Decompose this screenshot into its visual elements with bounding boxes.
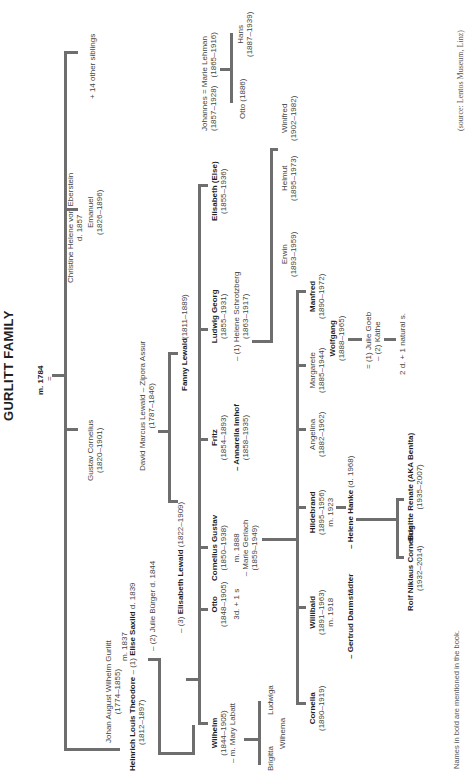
person-dates: d. 1857 — [75, 173, 84, 283]
person-name: Brigitte Renate (AKA Benita) — [406, 433, 415, 541]
generation1-line — [64, 51, 67, 751]
connector-line — [198, 546, 208, 549]
connector-line — [158, 658, 161, 755]
person-dates: (1887–1939) — [245, 12, 254, 57]
person-wolfgang: Wolfgang (1888–1965) — [328, 316, 346, 361]
person-dates: (1854–1893) — [219, 404, 228, 471]
person-dates: (1857–1928) — [209, 86, 218, 131]
person-dates: (1895–1973) — [289, 156, 298, 201]
spouse-julie-burger: – (2) Julie Bürger d. 1844 — [148, 561, 157, 651]
connector-line — [252, 340, 272, 343]
wolfgang-children: 2 d. + 1 natural s. — [398, 313, 407, 375]
person-dates: (1885–1944) — [317, 348, 326, 393]
connector-line — [296, 506, 306, 509]
connector-line — [270, 148, 278, 151]
connector-line — [230, 33, 233, 103]
person-dates: (1882–1962) — [317, 412, 326, 457]
person-dates: (1787–1846) — [147, 341, 156, 471]
person-name: – Helene Hanke — [346, 490, 355, 549]
connector-line — [296, 428, 306, 431]
person-dates: (1893–1959) — [289, 232, 298, 277]
person-name: Wilhelm — [210, 703, 219, 763]
spouse-helene-hanke: – Helene Hanke (d. 1968) — [346, 456, 355, 549]
person-dates: (1848–1905) — [219, 582, 228, 627]
person-brigitta: Brigitta — [266, 746, 275, 771]
spouse-marie-gerlach: – Marie Gerlach — [241, 515, 250, 581]
connector-line — [348, 338, 362, 341]
person-helmut: Helmut (1895–1973) — [280, 156, 298, 201]
person-wilhelm: Wilhelm (1844–1905) – m. Mary Labatt — [210, 703, 237, 763]
person-ludwiga: Ludwiga — [266, 685, 275, 715]
connector-line — [270, 149, 273, 343]
connector-line — [396, 498, 404, 501]
person-dates: (1902–1982) — [289, 96, 298, 141]
person-dates: (1855–1936) — [219, 161, 228, 221]
person-dates: (d. 1968) — [346, 456, 355, 488]
spouse-gertrud-darmstadter: – Gertrud Darmstädter — [346, 574, 355, 659]
marriage-date: m. 1923 — [326, 490, 335, 535]
person-dates: (1855–1931) — [219, 272, 228, 361]
connector-line — [220, 68, 230, 71]
person-brigitte-renate: Brigitte Renate (AKA Benita) (1935–2007) — [406, 433, 424, 541]
person-dates-heinrich: (1812–1897) — [137, 700, 146, 745]
person-johannes-dates: (1857–1928) (1865–1916) — [209, 32, 218, 131]
spouse-julie-goeb: = (1) Julie Goeb — [364, 312, 373, 369]
connector-line — [52, 374, 64, 377]
person-name: Johan August Wilhelm Gurlitt — [104, 640, 113, 743]
connector-line — [276, 538, 296, 541]
person-dates: (1890–1919) — [317, 686, 326, 731]
connector-line — [198, 328, 208, 331]
spouse-annarella-imhof: – Annarella Imhof — [232, 404, 241, 471]
children-count: 3d. + 1 s — [232, 582, 241, 627]
spouse-mary-labatt: – m. Mary Labatt — [228, 703, 237, 763]
connector-line — [64, 748, 120, 751]
person-dates: (1822–1909) — [176, 502, 185, 547]
person-cornelia: Cornelia (1890–1919) — [308, 686, 326, 731]
person-name: Elisabeth (Else) — [210, 161, 219, 221]
person-fanny-lewald-dates: (1811–1889) — [180, 294, 189, 339]
person-name: Emanuel — [86, 190, 95, 235]
connector-line — [258, 701, 261, 765]
person-erwin: Erwin (1893–1959) — [280, 232, 298, 277]
generation4-line — [296, 291, 299, 705]
other-siblings: + 14 other siblings — [88, 34, 97, 99]
person-name: Manfred — [308, 274, 317, 319]
person-name: Angelina — [308, 412, 317, 457]
connector-line — [198, 184, 208, 187]
spouse-dates: (1859–1949) — [250, 515, 259, 581]
person-dates: (1935–2007) — [415, 433, 424, 541]
person-name: Hans — [236, 12, 245, 57]
bold-names-footnote: Names in bold are mentioned in the book. — [452, 630, 461, 769]
person-dates: (1844–1905) — [219, 703, 228, 763]
marriage-equals: = — [45, 376, 54, 381]
person-name: Christine Helene von Eberstein — [66, 173, 75, 283]
person-name: Winifred — [280, 96, 289, 141]
person-dates: (1826–1896) — [95, 190, 104, 235]
marriage-equals: = — [200, 89, 209, 94]
connector-line — [296, 290, 306, 293]
connector-line — [296, 364, 306, 367]
connector-line — [192, 725, 195, 755]
person-wilhema: Wilhema — [278, 718, 287, 749]
person-dates: (1850–1938) — [219, 515, 228, 581]
person-margarete: Margarete (1885–1944) — [308, 348, 326, 393]
connector-line — [396, 499, 399, 559]
spouse-dates: (1865–1916) — [209, 32, 218, 77]
page-title: GURLITT FAMILY — [4, 310, 13, 421]
person-otto-1886: Otto (1886) — [238, 79, 247, 119]
spouse-dates: (1863–1917) — [241, 272, 250, 361]
person-name: Elisabeth Lewald — [176, 549, 185, 614]
connector-line — [148, 658, 158, 661]
person-name: Hildebrand — [308, 490, 317, 535]
person-hildebrand: Hildebrand (1895–1956) m. 1923 — [308, 490, 335, 535]
spouse-dates: d. 1839 — [128, 582, 137, 609]
person-name: Willibald — [308, 590, 317, 635]
person-hans: Hans (1887–1939) — [236, 12, 254, 57]
person-fritz: Fritz (1854–1893) – Annarella Imhof (185… — [210, 404, 250, 471]
connector-line — [198, 608, 208, 611]
connector-line — [64, 208, 78, 211]
connector-line — [64, 51, 78, 54]
connector-line — [158, 752, 194, 755]
person-ludwig-georg: Ludwig Georg (1855–1931) – (1) Helene Sc… — [210, 272, 250, 361]
person-elisabeth-else: Elisabeth (Else) (1855–1936) — [210, 161, 228, 221]
